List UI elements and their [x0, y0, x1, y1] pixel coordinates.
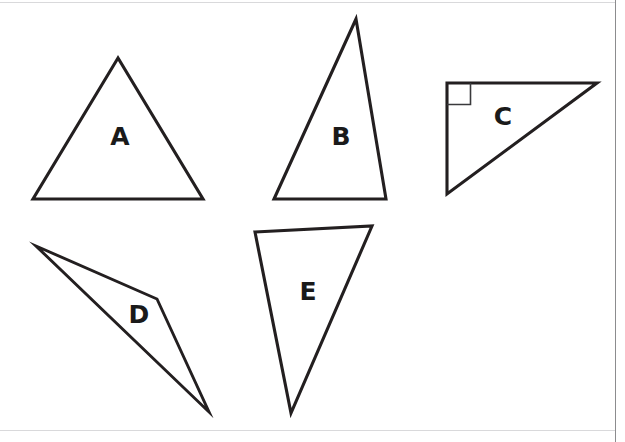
triangle-c[interactable] — [447, 83, 597, 194]
triangle-d-label: D — [129, 302, 150, 327]
triangle-a-label: A — [110, 124, 129, 149]
triangles-figure — [0, 0, 625, 442]
triangle-d[interactable] — [36, 246, 209, 412]
triangle-b-label: B — [331, 124, 350, 149]
triangle-b[interactable] — [274, 19, 386, 199]
triangle-e[interactable] — [255, 226, 372, 413]
triangle-c-label: C — [494, 104, 512, 129]
worksheet-page: A B C D E — [0, 0, 625, 442]
triangle-e-label: E — [299, 279, 316, 304]
